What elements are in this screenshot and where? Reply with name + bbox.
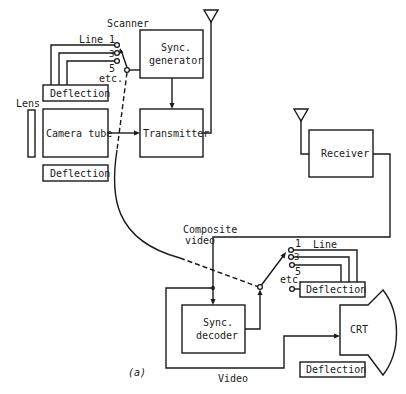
etc-label-tx: etc.	[99, 73, 123, 84]
composite-video-label-2: video	[185, 235, 215, 246]
deflection-label-bottom-tx: Deflection	[50, 168, 110, 179]
scanner-arrow-tx	[119, 48, 124, 54]
deflection-label-lower-rx: Deflection	[306, 364, 366, 375]
sync-decoder-label-2: decoder	[196, 330, 238, 341]
scanner-terminal-3-rx	[289, 255, 294, 260]
scanner-terminal-3-tx	[115, 51, 120, 56]
arrow-to-crt	[334, 334, 340, 339]
lens-label: Lens	[16, 98, 40, 109]
sync-generator-label-2: generator	[149, 55, 203, 66]
deflection-label-top-tx: Deflection	[50, 88, 110, 99]
tv-system-block-diagram: Scanner Line 1 3 5 etc. Deflection Lens …	[0, 0, 406, 394]
receiver-antenna-feed	[301, 121, 309, 154]
composite-video-label-1: Composite	[183, 224, 237, 235]
deflection-label-upper-rx: Deflection	[306, 284, 366, 295]
sync-decoder-box	[182, 305, 245, 353]
video-label: Video	[218, 373, 248, 384]
line-number-1-rx: 1	[295, 238, 301, 249]
transmitter-antenna-feed	[203, 18, 211, 133]
sync-generator-label-1: Sync.	[161, 42, 191, 53]
scanner-link-curve	[114, 150, 180, 258]
scanner-label: Scanner	[107, 18, 149, 29]
figure-caption: (a)	[128, 367, 146, 378]
scanner-pivot-tx	[125, 68, 130, 73]
scanner-link-dashed-tx	[117, 72, 127, 150]
transmitter-label: Transmitter	[143, 128, 209, 139]
line-label-rx: Line	[313, 239, 337, 250]
scanner-terminal-etc-rx	[290, 287, 295, 292]
scanner-link-dashed-rx	[180, 258, 259, 287]
transmitter-antenna-icon	[204, 10, 218, 22]
scanner-terminal-1-rx	[289, 248, 294, 253]
scanner-terminal-5-tx	[115, 59, 120, 64]
camera-tube-label: Camera tube	[46, 128, 112, 139]
line-label-tx: Line	[79, 34, 103, 45]
arrow-to-transmitter-left	[134, 131, 140, 136]
scanner-pivot-rx	[258, 285, 263, 290]
arrow-to-scanner-pivot-rx	[258, 290, 263, 296]
line-number-1-tx: 1	[109, 34, 115, 45]
line-number-3-tx: 3	[109, 49, 114, 59]
arrow-to-sync-decoder	[211, 299, 216, 305]
sync-decoder-label-1: Sync.	[203, 317, 233, 328]
sync-generator-box	[140, 30, 203, 78]
lens	[28, 110, 35, 157]
arrow-to-transmitter-top	[170, 103, 175, 109]
receiver-antenna-icon	[294, 109, 308, 121]
crt-label: CRT	[350, 324, 368, 335]
receiver-label: Receiver	[321, 148, 369, 159]
sync-decoder-to-scanner	[245, 293, 260, 329]
scanner-terminal-1-tx	[115, 43, 120, 48]
scanner-terminal-5-rx	[290, 263, 295, 268]
